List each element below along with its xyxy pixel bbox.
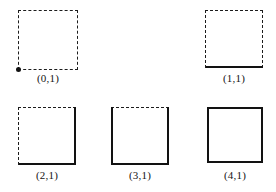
edge-top-dashed (111, 107, 169, 108)
edge-left-dashed (205, 10, 206, 68)
edge-left-solid (111, 107, 113, 165)
edge-left-dashed (18, 10, 19, 70)
square-outline (205, 10, 263, 68)
edge-left-solid (207, 107, 209, 163)
edge-top-solid (207, 107, 263, 109)
figure-label: (0,1) (18, 72, 78, 84)
edge-bottom-solid (207, 161, 263, 163)
edge-top-dashed (205, 10, 263, 11)
edge-right-dashed (262, 10, 263, 68)
edge-right-solid (167, 107, 169, 165)
figure-21: (2,1) (18, 107, 76, 183)
edge-left-dashed (18, 107, 19, 165)
figure-board: (0,1)(1,1)(2,1)(3,1)(4,1) (0, 0, 276, 192)
figure-31: (3,1) (111, 107, 169, 183)
figure-label: (2,1) (18, 169, 76, 181)
square-outline (18, 107, 76, 165)
figure-label: (4,1) (207, 169, 263, 181)
edge-top-dashed (18, 10, 78, 11)
square-outline (111, 107, 169, 165)
edge-bottom-solid (205, 66, 263, 68)
figure-label: (3,1) (111, 169, 169, 181)
figure-01: (0,1) (18, 10, 78, 86)
edge-right-dashed (77, 10, 78, 70)
square-outline (207, 107, 263, 163)
edge-bottom-dashed (18, 69, 78, 70)
square-outline (18, 10, 78, 70)
edge-bottom-solid (18, 163, 76, 165)
edge-top-dashed (18, 107, 76, 108)
edge-right-solid (74, 107, 76, 165)
figure-41: (4,1) (207, 107, 263, 183)
figure-label: (1,1) (205, 72, 263, 84)
edge-bottom-solid (111, 163, 169, 165)
figure-11: (1,1) (205, 10, 263, 86)
edge-right-solid (261, 107, 263, 163)
